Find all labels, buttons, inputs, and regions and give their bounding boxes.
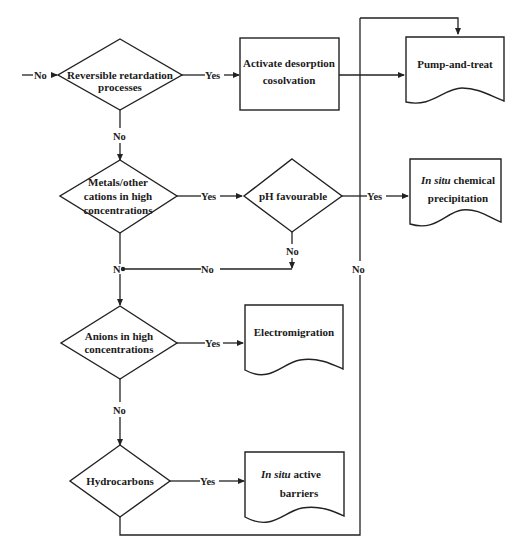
edge-anions-no: No [113, 379, 126, 445]
edge-label-ph-yes: Yes [367, 191, 382, 202]
node-ph-favourable: pH favourable [244, 159, 342, 232]
svg-text:processes: processes [98, 81, 143, 93]
edge-label-reversible-yes: Yes [205, 70, 220, 81]
svg-text:Hydrocarbons: Hydrocarbons [86, 475, 154, 487]
edge-label-anions-yes: Yes [205, 338, 220, 349]
edge-label-anions-no: No [113, 405, 126, 416]
svg-text:precipitation: precipitation [428, 192, 488, 204]
svg-text:Pump-and-treat: Pump-and-treat [417, 58, 493, 70]
edge-label-merge-no: No [201, 264, 214, 275]
node-in-situ-chemical-precipitation: In situ chemical precipitation [410, 159, 501, 226]
edge-label-hydro-yes: Yes [200, 476, 215, 487]
edge-ph-yes: Yes [342, 191, 408, 202]
edge-reversible-no: No [113, 110, 126, 160]
node-electromigration: Electromigration [245, 305, 343, 375]
svg-text:In situ active: In situ active [260, 468, 321, 480]
node-hydrocarbons: Hydrocarbons [70, 445, 170, 517]
edge-label-entry-no: No [34, 70, 47, 81]
node-activate-desorption: Activate desorption cosolvation [240, 38, 339, 110]
svg-text:In situ chemical: In situ chemical [420, 174, 495, 186]
edge-label-loop-no: No [352, 264, 365, 275]
edge-label-metals-yes: Yes [201, 191, 216, 202]
svg-text:pH favourable: pH favourable [259, 190, 327, 202]
svg-text:concentrations: concentrations [84, 343, 154, 355]
edge-entry-no: No [22, 70, 57, 81]
svg-text:barriers: barriers [280, 487, 319, 499]
node-reversible-retardation: Reversible retardation processes [58, 39, 182, 110]
node-pump-and-treat: Pump-and-treat [406, 37, 504, 103]
edge-ph-no: No No N [113, 232, 299, 275]
edge-label-merge-junction: N [113, 264, 121, 275]
svg-text:Anions in high: Anions in high [85, 330, 153, 342]
svg-text:cations in high: cations in high [84, 190, 152, 202]
edge-label-reversible-no: No [113, 131, 126, 142]
svg-text:Reversible retardation: Reversible retardation [67, 69, 173, 81]
flowchart-canvas: No Yes No Yes Yes No No N [0, 0, 521, 560]
node-anions: Anions in high concentrations [61, 306, 177, 379]
edge-metals-yes: Yes [177, 191, 242, 202]
svg-text:concentrations: concentrations [83, 204, 153, 216]
svg-text:Metals/other: Metals/other [88, 176, 148, 188]
node-metals-cations: Metals/other cations in high concentrati… [60, 160, 177, 233]
node-in-situ-active-barriers: In situ active barriers [245, 452, 344, 522]
svg-text:cosolvation: cosolvation [263, 74, 316, 86]
edge-label-ph-no: No [286, 246, 299, 257]
edge-anions-yes: Yes [177, 338, 243, 349]
svg-text:Electromigration: Electromigration [254, 326, 334, 338]
edge-hydro-yes: Yes [170, 476, 244, 487]
svg-text:Activate desorption: Activate desorption [243, 57, 335, 69]
edge-reversible-yes: Yes [182, 70, 239, 81]
